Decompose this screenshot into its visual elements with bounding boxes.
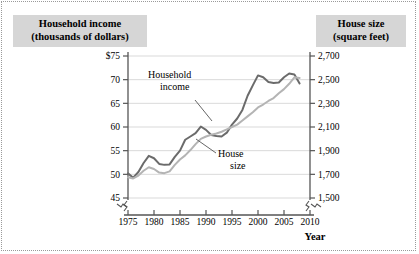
- left-axis-tick-label: 70: [111, 75, 121, 85]
- right-axis-break-mark: [306, 201, 309, 211]
- series-callout-line1: Household: [148, 69, 191, 80]
- series-callout: Housesize: [218, 148, 246, 171]
- x-axis-break-mark-start: [117, 204, 127, 207]
- chart-plot-area: 455055606570$75 1,5001,7001,9002,1002,30…: [0, 0, 419, 254]
- series-callouts-group: HouseholdincomeHousesize: [148, 69, 246, 171]
- x-axis-tick-label: 1990: [197, 217, 216, 227]
- x-axis-label: Year: [305, 231, 326, 242]
- series-callout-line1: House: [218, 148, 244, 159]
- left-axis-tick-label: $75: [106, 51, 121, 61]
- right-axis-tick-label: 2,100: [318, 122, 340, 132]
- x-axis-tick-label: 2000: [249, 217, 268, 227]
- left-axis-tick-label: 45: [111, 193, 121, 203]
- x-axis-group: 19751980198519901995200020052010: [117, 204, 321, 227]
- series-callout-line2: size: [230, 160, 246, 171]
- left-axis-tick-label: 55: [111, 146, 121, 156]
- x-axis-tick-label: 1995: [223, 217, 242, 227]
- right-axis-tick-label: 2,500: [318, 75, 340, 85]
- x-axis-tick-label: 1980: [145, 217, 164, 227]
- right-axis-tick-label: 1,900: [318, 146, 340, 156]
- series-line-house-size: [128, 77, 300, 178]
- x-axis-tick-label: 2010: [301, 217, 320, 227]
- series-callout: Householdincome: [148, 69, 191, 92]
- x-axis-tick-label: 2005: [275, 217, 294, 227]
- left-axis-group: 455055606570$75: [106, 51, 128, 211]
- series-line-household-income: [128, 74, 300, 178]
- right-axis-group: 1,5001,7001,9002,1002,3002,5002,700: [306, 51, 340, 211]
- x-axis-tick-label: 1975: [119, 217, 138, 227]
- right-axis-tick-label: 1,500: [318, 193, 340, 203]
- left-axis-tick-label: 60: [111, 122, 121, 132]
- left-axis-tick-label: 65: [111, 99, 121, 109]
- right-axis-tick-label: 1,700: [318, 170, 340, 180]
- right-axis-tick-label: 2,700: [318, 51, 340, 61]
- data-series-group: [128, 74, 300, 179]
- right-axis-tick-label: 2,300: [318, 99, 340, 109]
- chart-figure: Household income (thousands of dollars) …: [0, 0, 419, 254]
- x-axis-break-mark-end: [311, 204, 321, 207]
- series-callout-line2: income: [160, 81, 190, 92]
- left-axis-tick-label: 50: [111, 170, 121, 180]
- x-axis-tick-label: 1985: [171, 217, 190, 227]
